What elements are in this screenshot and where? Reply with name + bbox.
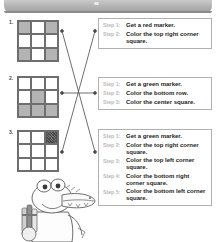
step-row: Step 1: Get a green marker. <box>103 81 208 88</box>
step-label: Step 5: <box>103 188 126 195</box>
instruction-box-3[interactable]: Step 1: Get a green marker. Step 2: Colo… <box>98 129 212 206</box>
grid-2-cell-r1c2[interactable] <box>31 77 44 90</box>
grid-2-cell-r2c2[interactable] <box>31 90 44 103</box>
step-text: Color the bottom row. <box>126 90 208 97</box>
step-row: Step 4: Color the bottom right corner sq… <box>103 173 208 187</box>
grid-1[interactable] <box>17 20 59 62</box>
instruction-box-2[interactable]: Step 1: Get a green marker. Step 2: Colo… <box>98 77 212 110</box>
step-label: Step 2: <box>103 31 126 38</box>
markers-bundle-icon <box>22 205 37 241</box>
grid-3-cell-r2c3[interactable] <box>45 144 58 157</box>
worksheet-page: 1. 2. 3. <box>0 0 216 242</box>
step-label: Step 2: <box>103 90 126 97</box>
step-row: Step 1: Get a red marker. <box>103 22 208 29</box>
step-row: Step 3: Color the top left corner square… <box>103 157 208 171</box>
grid-1-cell-r1c1[interactable] <box>18 21 31 34</box>
grid-1-cell-r3c1[interactable] <box>18 48 31 61</box>
step-text: Color the top right corner square. <box>126 31 208 45</box>
grid-1-cell-r3c2[interactable] <box>31 48 44 61</box>
step-text: Get a red marker. <box>126 22 208 29</box>
grid-1-cell-r3c3[interactable] <box>45 48 58 61</box>
grid-1-cell-r2c1[interactable] <box>18 34 31 47</box>
step-text: Get a green marker. <box>126 81 208 88</box>
item-number-2: 2. <box>9 75 13 81</box>
step-label: Step 3: <box>103 157 126 164</box>
step-row: Step 2: Color the top right corner squar… <box>103 31 208 45</box>
header-highlight-dot <box>94 2 99 5</box>
connector-grid3-to-box1 <box>62 31 95 152</box>
step-label: Step 3: <box>103 99 126 106</box>
step-label: Step 1: <box>103 81 126 88</box>
grid-2-cell-r2c1[interactable] <box>18 90 31 103</box>
step-row: Step 5: Color the bottom left corner squ… <box>103 188 208 202</box>
grid-2-cell-r3c2[interactable] <box>31 104 44 117</box>
grid-3-cell-r1c2[interactable] <box>31 131 44 144</box>
grid-1-cell-r2c3[interactable] <box>45 34 58 47</box>
step-label: Step 1: <box>103 22 126 29</box>
grid-3-cell-r1c1[interactable] <box>18 131 31 144</box>
grid-3[interactable] <box>17 130 59 172</box>
grid-1-cell-r2c2[interactable] <box>31 34 44 47</box>
grid-2[interactable] <box>17 76 59 118</box>
grid-2-cell-r1c1[interactable] <box>18 77 31 90</box>
grid-3-cell-r2c1[interactable] <box>18 144 31 157</box>
step-text: Get a green marker. <box>126 133 208 140</box>
step-text: Color the top left corner square. <box>126 157 208 171</box>
grid-1-cell-r1c2[interactable] <box>31 21 44 34</box>
connector-grid1-to-box3 <box>62 31 95 152</box>
step-row: Step 1: Get a green marker. <box>103 133 208 140</box>
step-row: Step 2: Color the top right corner squar… <box>103 142 208 156</box>
step-label: Step 4: <box>103 173 126 180</box>
grid-2-cell-r3c3[interactable] <box>45 104 58 117</box>
step-label: Step 2: <box>103 142 126 149</box>
step-row: Step 3: Color the center square. <box>103 99 208 106</box>
header-bar <box>4 0 212 13</box>
grid-2-cell-r2c3[interactable] <box>45 90 58 103</box>
item-number-3: 3. <box>9 129 13 135</box>
step-label: Step 1: <box>103 133 126 140</box>
grid-2-cell-r3c1[interactable] <box>18 104 31 117</box>
step-text: Color the center square. <box>126 99 208 106</box>
instruction-box-1[interactable]: Step 1: Get a red marker. Step 2: Color … <box>98 18 212 49</box>
step-text: Color the top right corner square. <box>126 142 208 156</box>
grid-3-cell-r2c2[interactable] <box>31 144 44 157</box>
step-text: Color the bottom right corner square. <box>126 173 208 187</box>
step-row: Step 2: Color the bottom row. <box>103 90 208 97</box>
grid-1-cell-r1c3[interactable] <box>45 21 58 34</box>
step-text: Color the bottom left corner square. <box>126 188 208 202</box>
crocodile-mascot-icon <box>6 168 98 242</box>
grid-2-cell-r1c3[interactable] <box>45 77 58 90</box>
grid-3-cell-r1c3[interactable] <box>45 131 58 144</box>
item-number-1: 1. <box>9 19 13 25</box>
